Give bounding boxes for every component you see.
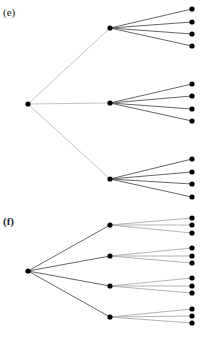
panel-e-tree: (e) [3,6,195,200]
internal-node [107,283,112,288]
leaf-node [189,81,194,86]
leaf-node [189,181,194,186]
leaf-edge [110,159,192,179]
root-node [25,268,30,273]
leaf-node [189,306,194,311]
leaf-node [189,156,194,161]
leaf-node [189,290,194,295]
root-edge [28,28,110,104]
root-edge [28,271,110,286]
internal-node [107,176,112,181]
leaf-edge [110,256,192,263]
edges [28,218,192,323]
root-edge [28,256,110,271]
internal-node [107,100,112,105]
root-edge [28,271,110,317]
leaf-node [189,222,194,227]
leaf-node [189,320,194,325]
leaf-edge [110,84,192,103]
root-edge [28,225,110,271]
leaf-node [189,118,194,123]
root-node [25,101,30,106]
tree-diagram-canvas: (e) (f) [0,0,202,337]
panel-f-tree: (f) [3,215,195,326]
leaf-node [189,313,194,318]
internal-node [107,222,112,227]
leaf-node [189,194,194,199]
leaf-edge [110,278,192,286]
leaf-node [189,31,194,36]
leaf-edge [110,317,192,323]
root-edge [28,104,110,179]
leaf-edge [110,248,192,256]
leaf-node [189,260,194,265]
nodes [25,215,194,325]
internal-node [107,25,112,30]
leaf-node [189,283,194,288]
internal-node [107,314,112,319]
leaf-edge [110,218,192,225]
leaf-node [189,6,194,11]
leaf-node [189,253,194,258]
panel-label: (f) [3,215,14,228]
leaf-node [189,19,194,24]
nodes [25,6,194,199]
leaf-node [189,215,194,220]
leaf-edge [110,286,192,293]
panel-label: (e) [3,6,16,19]
leaf-node [189,93,194,98]
leaf-edge [110,96,192,103]
leaf-node [189,169,194,174]
leaf-node [189,245,194,250]
leaf-node [189,275,194,280]
leaf-edge [110,225,192,233]
leaf-node [189,43,194,48]
leaf-edge [110,172,192,179]
root-edge [28,103,110,104]
leaf-node [189,230,194,235]
internal-node [107,253,112,258]
leaf-node [189,106,194,111]
